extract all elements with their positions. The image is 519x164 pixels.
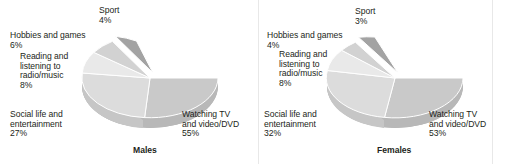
label-reading-males-value: 8% (20, 81, 68, 91)
label-sport-males: Sport 4% (99, 6, 119, 25)
label-hobbies-males-value: 6% (10, 41, 86, 51)
chart-caption-males: Males (133, 145, 157, 155)
label-sport-females-value: 3% (355, 17, 375, 27)
label-hobbies-females: Hobbies and games 4% (267, 31, 343, 50)
label-sport-males-value: 4% (99, 16, 119, 26)
pie-slices-males (82, 36, 218, 117)
chart-panel-females: Sport 3% Hobbies and games 4% Reading an… (259, 0, 518, 164)
label-social-males: Social life and entertainment 27% (10, 110, 63, 139)
label-sport-males-name: Sport (99, 5, 119, 15)
pie-slices-females (326, 37, 463, 118)
chart-panel-males: Sport 4% Hobbies and games 6% Reading an… (0, 0, 259, 164)
chart-stage: Sport 4% Hobbies and games 6% Reading an… (0, 0, 519, 164)
label-social-females: Social life and entertainment 32% (264, 110, 317, 139)
label-tv-females: Watching TV and video/DVD 53% (429, 110, 486, 139)
label-tv-males: Watching TV and video/DVD 55% (182, 110, 239, 139)
label-social-males-value: 27% (10, 129, 63, 139)
label-reading-males: Reading and listening to radio/music 8% (20, 52, 68, 90)
label-reading-females-value: 8% (279, 79, 327, 89)
label-sport-females: Sport 3% (355, 7, 375, 26)
chart-caption-females: Females (377, 145, 411, 155)
label-hobbies-males: Hobbies and games 6% (10, 31, 86, 50)
label-social-females-value: 32% (264, 129, 317, 139)
label-sport-females-name: Sport (355, 6, 375, 16)
label-hobbies-males-name: Hobbies and games (10, 30, 86, 40)
label-tv-males-value: 55% (182, 129, 239, 139)
label-reading-females: Reading and listening to radio/music 8% (279, 50, 327, 88)
label-tv-females-value: 53% (429, 129, 486, 139)
label-hobbies-females-name: Hobbies and games (267, 30, 343, 40)
